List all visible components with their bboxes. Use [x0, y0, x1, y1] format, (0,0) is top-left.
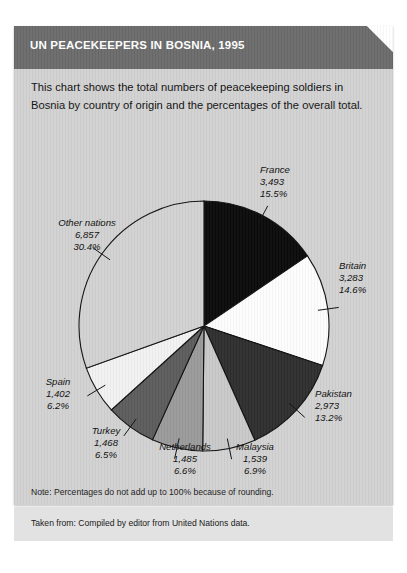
source-row: Taken from: Compiled by editor from Unit… — [14, 507, 393, 541]
card-header: UN PEACEKEEPERS IN BOSNIA, 1995 — [14, 26, 393, 69]
pie-label-pakistan: Pakistan 2,973 13.2% — [315, 388, 352, 425]
source-note: Taken from: Compiled by editor from Unit… — [31, 518, 250, 528]
pie-chart: France 3,493 15.5% Britain 3,283 14.6% P… — [14, 136, 393, 481]
note-row: Note: Percentages do not add up to 100% … — [14, 481, 393, 507]
chart-card: UN PEACEKEEPERS IN BOSNIA, 1995 This cha… — [14, 26, 393, 505]
pie-label-britain: Britain 3,283 14.6% — [339, 260, 366, 297]
intro-text: This chart shows the total numbers of pe… — [31, 79, 365, 114]
rounding-note: Note: Percentages do not add up to 100% … — [31, 487, 274, 497]
pie-label-france: France 3,493 15.5% — [260, 164, 290, 201]
pie-chart-svg — [14, 136, 393, 481]
pie-label-spain: Spain 1,402 6.2% — [29, 376, 87, 413]
pie-label-netherlands: Netherlands 1,485 6.6% — [148, 441, 222, 478]
pie-label-other-nations: Other nations 6,857 30.4% — [41, 217, 133, 254]
page-title: UN PEACEKEEPERS IN BOSNIA, 1995 — [30, 39, 245, 51]
pie-label-turkey: Turkey 1,468 6.5% — [77, 425, 135, 462]
pie-label-malaysia: Malaysia 1,539 6.9% — [226, 441, 284, 478]
